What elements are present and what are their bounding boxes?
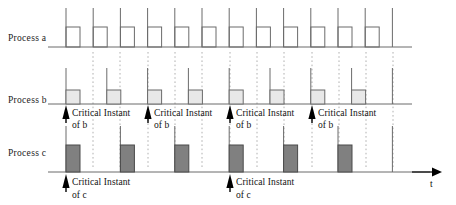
- process-c-pulse-4: [284, 145, 298, 172]
- process-c-pulse-2: [175, 145, 189, 172]
- process-b-pulse-2: [148, 90, 162, 104]
- process-a-pulse-10: [338, 27, 352, 47]
- process-c-pulse-5: [338, 145, 352, 172]
- critical-instant-c-2-line1: Critical Instant: [236, 177, 295, 187]
- process-b-pulse-6: [311, 90, 325, 104]
- timing-diagram-canvas: Process aProcess bProcess c Critical Ins…: [0, 0, 456, 205]
- process-b-pulse-7: [352, 90, 366, 104]
- process-a-pulse-4: [175, 27, 189, 47]
- process-a-pulse-7: [256, 27, 270, 47]
- critical-instant-b-1-arrow-icon: [62, 105, 69, 119]
- timing-diagram: Process aProcess bProcess c Critical Ins…: [0, 0, 456, 205]
- critical-instant-b-2-line1: Critical Instant: [154, 108, 213, 118]
- critical-instant-c-2-line2: of c: [236, 190, 251, 200]
- process-a-pulse-2: [120, 27, 134, 47]
- critical-instant-c-2-arrow-icon: [226, 174, 233, 188]
- critical-instant-b-3-line1: Critical Instant: [236, 108, 295, 118]
- process-b-pulse-5: [270, 90, 284, 104]
- critical-instant-b-4-line1: Critical Instant: [318, 108, 377, 118]
- process-a-pulse-3: [148, 27, 162, 47]
- process-b-label: Process b: [8, 95, 47, 105]
- time-axis-label: t: [430, 179, 433, 189]
- critical-instant-b-2-line2: of b: [154, 120, 170, 130]
- critical-instant-b-annotations: Critical Instantof bCritical Instantof b…: [62, 105, 376, 130]
- critical-instant-c-1-line1: Critical Instant: [72, 177, 131, 187]
- process-b-pulse-0: [66, 90, 80, 104]
- process-rows: [48, 8, 430, 172]
- process-c-pulse-0: [66, 145, 80, 172]
- critical-instant-c-2: Critical Instantof c: [226, 174, 294, 200]
- critical-instant-b-2-arrow-icon: [144, 105, 151, 119]
- process-a-pulse-5: [202, 27, 216, 47]
- process-a-pulse-1: [93, 27, 107, 47]
- process-c-pulse-1: [120, 145, 134, 172]
- process-a-pulse-9: [311, 27, 325, 47]
- time-axis-arrowhead-icon: [432, 168, 442, 177]
- critical-instant-b-3-arrow-icon: [226, 105, 233, 119]
- critical-instant-b-3-line2: of b: [236, 120, 252, 130]
- critical-instant-b-3: Critical Instantof b: [226, 105, 294, 130]
- process-a-pulse-0: [66, 27, 80, 47]
- critical-instant-b-1-line2: of b: [72, 120, 88, 130]
- process-c-row: [48, 126, 430, 172]
- process-b-pulse-4: [229, 90, 243, 104]
- process-c-pulse-3: [229, 145, 243, 172]
- process-a-pulse-8: [284, 27, 298, 47]
- process-a-pulse-6: [229, 27, 243, 47]
- process-b-pulse-1: [107, 90, 121, 104]
- process-c-label: Process c: [8, 148, 46, 158]
- critical-instant-b-4-arrow-icon: [308, 105, 315, 119]
- critical-instant-b-4: Critical Instantof b: [308, 105, 376, 130]
- process-a-pulse-11: [365, 27, 379, 47]
- critical-instant-c-1: Critical Instantof c: [62, 174, 130, 200]
- critical-instant-b-4-line2: of b: [318, 120, 334, 130]
- critical-instant-c-1-arrow-icon: [62, 174, 69, 188]
- critical-instant-b-2: Critical Instantof b: [144, 105, 212, 130]
- process-a-row: [48, 8, 412, 47]
- process-b-pulse-3: [188, 90, 202, 104]
- process-a-label: Process a: [8, 33, 47, 43]
- time-axis-arrow: t: [412, 168, 442, 190]
- critical-instant-c-1-line2: of c: [72, 190, 87, 200]
- process-labels: Process aProcess bProcess c: [8, 33, 47, 158]
- critical-instant-b-1-line1: Critical Instant: [72, 108, 131, 118]
- critical-instant-c-annotations: Critical Instantof cCritical Instantof c: [62, 174, 294, 200]
